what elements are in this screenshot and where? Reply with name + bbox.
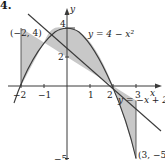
point-label-left: (−2, 4) [10,28,42,38]
line-label: y = −x + 2 [117,95,165,105]
y-tick-4: 4 [60,19,66,29]
problem-number: 4. [0,0,11,12]
y-axis-arrow-icon [65,8,70,15]
x-tick-1: 1 [88,90,94,100]
y-tick-2: 2 [58,52,64,62]
y-axis-label: y [69,4,76,14]
x-tick-2: 2 [107,90,113,100]
y-tick-neg5: −5 [54,154,68,160]
x-tick-neg2: −2 [13,90,26,100]
x-axis-arrow-icon [155,84,162,89]
parabola-label: y = 4 − x² [87,29,134,39]
area-between-curves-diagram: 4. y x −2 −1 1 2 3 4 2 −5 y = 4 − x² y =… [0,0,165,160]
point-label-bottom: (3, −5) [138,150,165,160]
x-tick-neg1: −1 [38,90,51,100]
